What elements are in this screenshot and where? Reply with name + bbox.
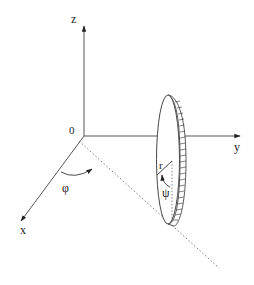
phi-arc-arrow [61,169,92,175]
radius-label: r [159,160,163,171]
projection-line [79,141,219,268]
z-axis-label: z [71,13,76,25]
x-axis-label: x [20,224,26,236]
psi-label: ψ [162,187,170,199]
phi-label: φ [62,182,69,194]
x-axis [21,136,84,221]
origin-label: 0 [69,125,75,136]
y-axis-label: y [234,141,240,153]
diagram-canvas [0,0,254,285]
